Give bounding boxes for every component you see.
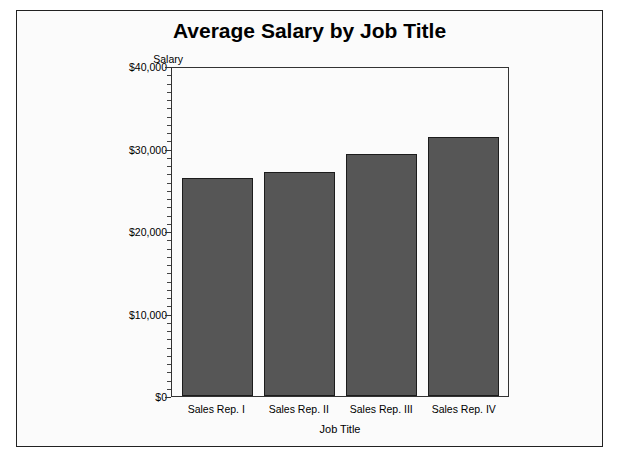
bar-slot	[176, 68, 258, 396]
x-axis-tick-labels: Sales Rep. ISales Rep. IISales Rep. IIIS…	[171, 403, 509, 415]
y-axis-minor-tick	[167, 282, 171, 283]
y-axis-minor-tick	[167, 331, 171, 332]
y-axis-minor-tick	[167, 158, 171, 159]
y-axis-minor-tick	[167, 372, 171, 373]
y-axis-minor-tick	[167, 339, 171, 340]
y-axis-minor-tick	[167, 84, 171, 85]
bar[interactable]	[428, 137, 499, 396]
y-axis-minor-tick	[167, 92, 171, 93]
bar-slot	[258, 68, 340, 396]
y-axis-minor-tick	[167, 306, 171, 307]
chart-frame: Average Salary by Job Title Salary Sales…	[16, 10, 603, 447]
y-axis-minor-tick	[167, 290, 171, 291]
y-axis-minor-tick	[167, 265, 171, 266]
bar[interactable]	[182, 178, 253, 396]
y-axis-major-tick	[165, 397, 171, 398]
y-axis-minor-tick	[167, 273, 171, 274]
y-axis-minor-tick	[167, 183, 171, 184]
x-axis-tick-label: Sales Rep. I	[175, 403, 258, 415]
y-axis-minor-tick	[167, 381, 171, 382]
y-axis-minor-tick	[167, 224, 171, 225]
bar[interactable]	[346, 154, 417, 396]
y-axis-minor-tick	[167, 100, 171, 101]
y-axis-tick-label: $0	[105, 391, 167, 403]
y-axis-major-tick	[165, 150, 171, 151]
y-axis-minor-tick	[167, 75, 171, 76]
y-axis-minor-tick	[167, 174, 171, 175]
bar-slot	[422, 68, 504, 396]
x-axis-title: Job Title	[171, 423, 509, 435]
y-axis-minor-tick	[167, 108, 171, 109]
plot-area	[171, 67, 509, 397]
chart-title: Average Salary by Job Title	[17, 19, 602, 43]
y-axis-minor-tick	[167, 191, 171, 192]
bar-series	[172, 68, 508, 396]
bar[interactable]	[264, 172, 335, 396]
y-axis-tick-label: $30,000	[105, 144, 167, 156]
x-axis-tick-label: Sales Rep. III	[340, 403, 423, 415]
y-axis-tick-label: $20,000	[105, 226, 167, 238]
y-axis-minor-tick	[167, 133, 171, 134]
y-axis-major-tick	[165, 232, 171, 233]
y-axis-minor-tick	[167, 323, 171, 324]
y-axis-minor-tick	[167, 240, 171, 241]
y-axis-tick-label: $40,000	[105, 61, 167, 73]
y-axis-minor-tick	[167, 117, 171, 118]
y-axis-minor-tick	[167, 364, 171, 365]
x-axis-tick-label: Sales Rep. IV	[423, 403, 506, 415]
y-axis-minor-tick	[167, 356, 171, 357]
y-axis-minor-tick	[167, 389, 171, 390]
y-axis-minor-tick	[167, 348, 171, 349]
y-axis-minor-tick	[167, 216, 171, 217]
y-axis-minor-tick	[167, 249, 171, 250]
y-axis-minor-tick	[167, 298, 171, 299]
y-axis-tick-label: $10,000	[105, 309, 167, 321]
y-axis-minor-tick	[167, 199, 171, 200]
y-axis-minor-tick	[167, 141, 171, 142]
y-axis-minor-tick	[167, 166, 171, 167]
x-axis-tick-label: Sales Rep. II	[258, 403, 341, 415]
y-axis-minor-tick	[167, 257, 171, 258]
y-axis-minor-tick	[167, 207, 171, 208]
y-axis-minor-tick	[167, 125, 171, 126]
bar-slot	[340, 68, 422, 396]
y-axis-major-tick	[165, 67, 171, 68]
y-axis-major-tick	[165, 315, 171, 316]
